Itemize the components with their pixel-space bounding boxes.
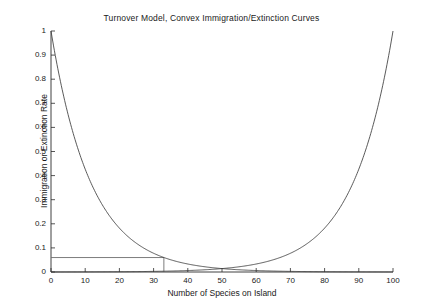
x-tick-label: 60 <box>243 276 269 285</box>
axes <box>51 31 393 272</box>
y-tick-label: 0.6 <box>20 122 46 131</box>
y-tick-label: 0.3 <box>20 195 46 204</box>
y-tick-label: 0.2 <box>20 219 46 228</box>
x-tick-label: 80 <box>312 276 338 285</box>
y-tick-label: 0 <box>20 267 46 276</box>
x-tick-label: 90 <box>346 276 372 285</box>
extinction-curve <box>51 31 393 272</box>
x-tick-label: 100 <box>380 276 406 285</box>
immigration-curve <box>51 31 393 272</box>
curve-lines <box>51 31 393 272</box>
y-tick-label: 0.8 <box>20 74 46 83</box>
y-tick-label: 0.4 <box>20 171 46 180</box>
chart-figure: Turnover Model, Convex Immigration/Extin… <box>0 0 423 306</box>
equilibrium-guide-lines <box>51 258 164 272</box>
y-tick-label: 0.5 <box>20 147 46 156</box>
y-tick-label: 0.7 <box>20 98 46 107</box>
tick-marks <box>51 31 393 272</box>
x-tick-label: 50 <box>209 276 235 285</box>
x-tick-label: 20 <box>106 276 132 285</box>
x-tick-label: 10 <box>72 276 98 285</box>
x-tick-label: 0 <box>38 276 64 285</box>
x-tick-label: 70 <box>277 276 303 285</box>
x-tick-label: 30 <box>141 276 167 285</box>
plot-area <box>0 0 423 306</box>
x-tick-label: 40 <box>175 276 201 285</box>
y-tick-label: 0.9 <box>20 50 46 59</box>
y-tick-label: 1 <box>20 26 46 35</box>
y-tick-label: 0.1 <box>20 243 46 252</box>
